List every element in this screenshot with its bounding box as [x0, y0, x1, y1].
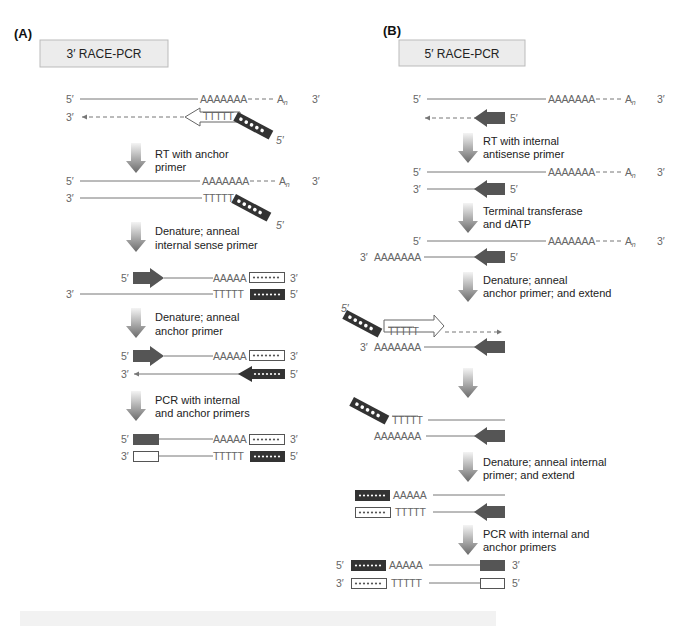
- a-row9-product: 5′ AAAAA 3′: [121, 433, 298, 445]
- step-arrow-icon: [126, 143, 146, 173]
- svg-text:3′: 3′: [657, 166, 665, 178]
- svg-text:5′: 5′: [336, 559, 344, 571]
- svg-text:TTTTT: TTTTT: [213, 288, 244, 300]
- panel-b-title: 5′ RACE-PCR: [425, 47, 500, 61]
- step-arrow-icon: [126, 308, 146, 338]
- b-row13-product: 5′ AAAAA 3′: [336, 559, 520, 571]
- anchor-primer-tag-icon: [342, 310, 382, 338]
- svg-text:AAAAAAA: AAAAAAA: [548, 166, 595, 178]
- b-row7-anchor-extension: 5′ TTTTT: [341, 302, 502, 338]
- panel-a: (A) 3′ RACE-PCR 5′ AAAAAAA An 3′ 3′ TTTT…: [14, 26, 320, 462]
- svg-text:5′: 5′: [276, 134, 285, 146]
- step-arrow-icon: [458, 133, 478, 163]
- a-row2-cdna-synthesis: 3′ TTTTT 5′: [66, 108, 285, 146]
- svg-text:anchor primer: anchor primer: [155, 325, 223, 337]
- svg-text:5′: 5′: [510, 183, 518, 195]
- b-row3-mrna: 5′ AAAAAAA An 3′: [413, 166, 665, 179]
- step-arrow-icon: [458, 272, 478, 302]
- caption-bar: [20, 611, 496, 626]
- svg-text:An: An: [277, 93, 288, 106]
- panel-b: (B) 5′ RACE-PCR 5′ AAAAAAA An 3′ 5′ RT w…: [336, 23, 665, 589]
- anchor-primer-tag-icon: [231, 194, 271, 222]
- svg-text:TTTTT: TTTTT: [391, 577, 422, 589]
- svg-text:3′: 3′: [66, 192, 74, 204]
- svg-text:anchor primer; and extend: anchor primer; and extend: [483, 287, 611, 299]
- svg-text:3′: 3′: [121, 450, 129, 462]
- a-row10-product: 3′ TTTTT 5′: [121, 450, 298, 462]
- b-row6-tailed-cdna: 3′ AAAAAAA 5′: [360, 248, 518, 266]
- panel-a-label: (A): [14, 26, 32, 41]
- svg-text:AAAAAAA: AAAAAAA: [548, 93, 595, 105]
- b-row2-rt: 5′: [425, 109, 518, 127]
- svg-text:TTTTT: TTTTT: [395, 506, 426, 518]
- svg-text:PCR with internal: PCR with internal: [155, 394, 240, 406]
- svg-text:3′: 3′: [312, 93, 320, 105]
- svg-text:3′: 3′: [657, 235, 665, 247]
- b-row5-mrna: 5′ AAAAAAA An 3′: [413, 235, 665, 248]
- panel-a-title: 3′ RACE-PCR: [67, 47, 142, 61]
- a-row7-sense-primer: 5′ AAAAA 3′: [121, 346, 298, 366]
- antisense-primer-icon: [474, 109, 505, 127]
- svg-text:TTTTT: TTTTT: [203, 192, 234, 204]
- b-row14-product: 3′ TTTTT 5′: [336, 577, 520, 589]
- svg-text:An: An: [625, 235, 636, 248]
- svg-text:and anchor primers: and anchor primers: [155, 407, 250, 419]
- svg-text:An: An: [279, 175, 290, 188]
- step-arrow-icon: [126, 222, 146, 252]
- svg-text:An: An: [625, 166, 636, 179]
- svg-text:3′: 3′: [290, 350, 298, 362]
- svg-text:AAAAA: AAAAA: [213, 433, 247, 445]
- svg-text:5′: 5′: [413, 166, 421, 178]
- svg-text:RT with anchor: RT with anchor: [155, 148, 229, 160]
- b-row8-tailed-cdna: 3′ AAAAAAA: [360, 338, 505, 356]
- svg-text:5′: 5′: [510, 112, 518, 124]
- b-row11: AAAAA: [355, 489, 505, 501]
- a-row5-sense-primer: 5′ AAAAA 3′: [121, 268, 298, 288]
- svg-text:primer; and extend: primer; and extend: [483, 469, 575, 481]
- svg-text:AAAAA: AAAAA: [389, 559, 423, 571]
- a-row1-mrna: 5′ AAAAAAA An 3′: [66, 93, 320, 106]
- svg-text:5′: 5′: [413, 235, 421, 247]
- anchor-primer-tag-icon: [233, 112, 273, 140]
- svg-text:5′: 5′: [66, 93, 74, 105]
- svg-text:3′: 3′: [290, 433, 298, 445]
- svg-text:AAAAAAA: AAAAAAA: [200, 93, 247, 105]
- svg-text:and dATP: and dATP: [483, 218, 531, 230]
- svg-text:Denature; anneal: Denature; anneal: [483, 274, 567, 286]
- svg-text:Terminal transferase: Terminal transferase: [483, 205, 583, 217]
- internal-sense-primer-icon: [133, 268, 164, 288]
- svg-text:3′: 3′: [360, 341, 368, 353]
- step-arrow-icon: [458, 452, 478, 482]
- svg-text:TTTTT: TTTTT: [213, 450, 244, 462]
- svg-text:Denature; anneal: Denature; anneal: [155, 311, 239, 323]
- svg-text:5′: 5′: [66, 175, 74, 187]
- svg-text:5′: 5′: [121, 272, 129, 284]
- b-row9-ds-cdna: TTTTT: [349, 397, 505, 426]
- step-arrow-icon: [126, 391, 146, 421]
- svg-text:primer: primer: [155, 161, 187, 173]
- svg-text:AAAAA: AAAAA: [213, 350, 247, 362]
- svg-text:5′: 5′: [121, 433, 129, 445]
- svg-text:Denature; anneal internal: Denature; anneal internal: [483, 456, 607, 468]
- svg-text:3′: 3′: [121, 368, 129, 380]
- svg-text:3′: 3′: [413, 183, 421, 195]
- b-row12: TTTTT: [356, 503, 506, 521]
- svg-text:PCR with internal and: PCR with internal and: [483, 528, 589, 540]
- svg-text:AAAAAAA: AAAAAAA: [202, 175, 249, 187]
- svg-text:5′: 5′: [276, 219, 285, 231]
- svg-text:RT with internal: RT with internal: [483, 135, 559, 147]
- svg-text:5′: 5′: [121, 350, 129, 362]
- b-row10-ds-cdna: AAAAAAA: [374, 427, 505, 445]
- svg-text:3′: 3′: [512, 559, 520, 571]
- b-row1-mrna: 5′ AAAAAAA An 3′: [413, 93, 665, 106]
- svg-text:5′: 5′: [413, 93, 421, 105]
- svg-text:3′: 3′: [336, 577, 344, 589]
- race-pcr-diagram: (A) 3′ RACE-PCR 5′ AAAAAAA An 3′ 3′ TTTT…: [0, 0, 699, 626]
- step-arrow-icon: [458, 368, 478, 398]
- svg-text:5′: 5′: [290, 450, 298, 462]
- svg-text:5′: 5′: [512, 577, 520, 589]
- svg-text:3′: 3′: [360, 251, 368, 263]
- svg-text:3′: 3′: [290, 272, 298, 284]
- step-arrow-icon: [458, 525, 478, 555]
- svg-text:TTTTT: TTTTT: [203, 110, 234, 122]
